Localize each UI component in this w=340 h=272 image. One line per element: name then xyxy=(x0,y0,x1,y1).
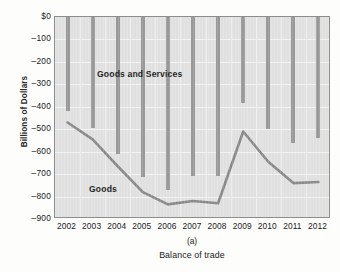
chart-caption: Balance of trade xyxy=(54,250,330,260)
x-axis-tick-labels: 2002200320042005200620072008200920102011… xyxy=(54,221,330,235)
goods-and-services-label: Goods and Services xyxy=(97,69,182,79)
goods-label: Goods xyxy=(89,184,117,194)
x-tick-label-2010: 2010 xyxy=(258,221,277,231)
x-tick-label-2009: 2009 xyxy=(233,221,252,231)
y-tick-label: –300 xyxy=(3,78,51,88)
x-tick-label-2002: 2002 xyxy=(57,221,76,231)
x-tick-label-2008: 2008 xyxy=(208,221,227,231)
y-tick-label: –200 xyxy=(3,56,51,66)
y-tick-label: –100 xyxy=(3,33,51,43)
x-tick-label-2007: 2007 xyxy=(182,221,201,231)
y-tick-label: –500 xyxy=(3,123,51,133)
y-tick-label: –800 xyxy=(3,191,51,201)
x-tick-label-2006: 2006 xyxy=(157,221,176,231)
x-tick-label-2011: 2011 xyxy=(283,221,301,231)
y-tick-label: –900 xyxy=(3,213,51,223)
x-tick-label-2004: 2004 xyxy=(107,221,126,231)
y-tick-label: –700 xyxy=(3,168,51,178)
panel-letter: (a) xyxy=(54,236,330,246)
y-tick-label: –600 xyxy=(3,146,51,156)
y-axis-tick-labels: $0–100–200–300–400–500–600–700–800–900 xyxy=(0,16,51,218)
y-tick-label: $0 xyxy=(3,11,51,21)
plot-area: Goods and Services Goods xyxy=(54,16,330,218)
x-tick-label-2003: 2003 xyxy=(82,221,101,231)
x-tick-label-2012: 2012 xyxy=(308,221,327,231)
x-tick-label-2005: 2005 xyxy=(132,221,151,231)
y-tick-label: –400 xyxy=(3,101,51,111)
chart-page: Billions of Dollars $0–100–200–300–400–5… xyxy=(0,0,340,272)
